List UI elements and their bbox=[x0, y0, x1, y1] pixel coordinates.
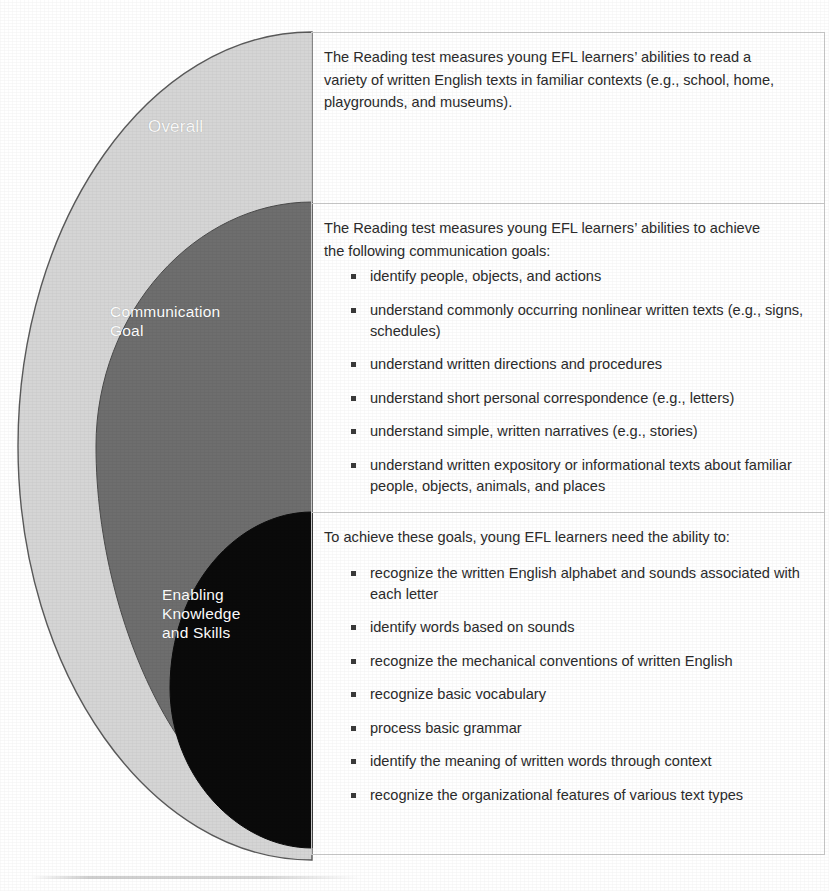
arc-label-enabling-knowledge-and-skills: Enabling Knowledge and Skills bbox=[162, 585, 241, 642]
bullet-item: understand simple, written narratives (e… bbox=[324, 421, 808, 442]
panel-enabling-knowledge-and-skills-bullets: recognize the written English alphabet a… bbox=[324, 563, 808, 806]
panel-overall-intro: The Reading test measures young EFL lear… bbox=[324, 46, 782, 114]
square-bullet-icon bbox=[351, 274, 356, 279]
bullet-item: recognize the mechanical conventions of … bbox=[324, 651, 808, 672]
bullet-item: understand short personal correspondence… bbox=[324, 388, 808, 409]
square-bullet-icon bbox=[351, 659, 356, 664]
square-bullet-icon bbox=[351, 362, 356, 367]
bullet-text: recognize the mechanical conventions of … bbox=[370, 653, 733, 669]
arc-label-overall: Overall bbox=[148, 117, 203, 136]
square-bullet-icon bbox=[351, 793, 356, 798]
square-bullet-icon bbox=[351, 463, 356, 468]
square-bullet-icon bbox=[351, 692, 356, 697]
bullet-item: understand commonly occurring nonlinear … bbox=[324, 300, 808, 342]
bullet-item: identify people, objects, and actions bbox=[324, 266, 808, 287]
square-bullet-icon bbox=[351, 308, 356, 313]
bullet-item: understand written expository or informa… bbox=[324, 455, 808, 497]
square-bullet-icon bbox=[351, 429, 356, 434]
square-bullet-icon bbox=[351, 571, 356, 576]
bullet-text: identify words based on sounds bbox=[370, 619, 574, 635]
panel-stack: The Reading test measures young EFL lear… bbox=[311, 32, 825, 855]
bullet-item: recognize basic vocabulary bbox=[324, 684, 808, 705]
panel-communication-goal: The Reading test measures young EFL lear… bbox=[312, 204, 824, 513]
bullet-text: identify the meaning of written words th… bbox=[370, 753, 712, 769]
bullet-text: recognize basic vocabulary bbox=[370, 686, 546, 702]
bullet-item: process basic grammar bbox=[324, 718, 808, 739]
scan-artifact-line bbox=[30, 876, 360, 879]
bullet-text: understand simple, written narratives (e… bbox=[370, 423, 698, 439]
bullet-text: recognize the organizational features of… bbox=[370, 787, 743, 803]
bullet-text: process basic grammar bbox=[370, 720, 522, 736]
panel-overall: The Reading test measures young EFL lear… bbox=[312, 33, 824, 204]
bullet-text: understand short personal correspondence… bbox=[370, 390, 734, 406]
square-bullet-icon bbox=[351, 625, 356, 630]
arc-label-communication-goal: Communication Goal bbox=[110, 302, 220, 340]
panel-enabling-knowledge-and-skills: To achieve these goals, young EFL learne… bbox=[312, 513, 824, 854]
square-bullet-icon bbox=[351, 396, 356, 401]
bullet-text: recognize the written English alphabet a… bbox=[370, 565, 800, 602]
bullet-text: understand written directions and proced… bbox=[370, 356, 662, 372]
bullet-text: identify people, objects, and actions bbox=[370, 268, 601, 284]
bullet-text: understand commonly occurring nonlinear … bbox=[370, 302, 803, 339]
construct-diagram: Overall Communication Goal Enabling Know… bbox=[0, 0, 829, 891]
bullet-item: understand written directions and proced… bbox=[324, 354, 808, 375]
bullet-text: understand written expository or informa… bbox=[370, 457, 792, 494]
panel-enabling-knowledge-and-skills-intro: To achieve these goals, young EFL learne… bbox=[324, 526, 782, 549]
square-bullet-icon bbox=[351, 726, 356, 731]
bullet-item: identify the meaning of written words th… bbox=[324, 751, 808, 772]
panel-communication-goal-bullets: identify people, objects, and actionsund… bbox=[324, 266, 808, 497]
square-bullet-icon bbox=[351, 759, 356, 764]
bullet-item: recognize the written English alphabet a… bbox=[324, 563, 808, 605]
panel-communication-goal-intro: The Reading test measures young EFL lear… bbox=[324, 217, 782, 262]
bullet-item: recognize the organizational features of… bbox=[324, 785, 808, 806]
bullet-item: identify words based on sounds bbox=[324, 617, 808, 638]
